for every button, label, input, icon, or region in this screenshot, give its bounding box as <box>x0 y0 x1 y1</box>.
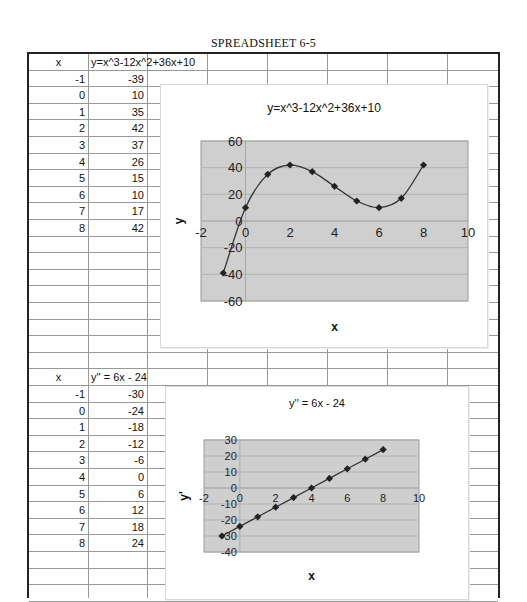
y-tick-label: 20 <box>225 450 237 462</box>
table2-cell-x[interactable]: 7 <box>32 519 85 535</box>
table1-cell-y[interactable]: 15 <box>91 170 144 186</box>
page-title: SPREADSHEET 6-5 <box>0 36 527 51</box>
table1-cell-x[interactable]: 4 <box>32 154 85 170</box>
table2-cell-y[interactable]: 6 <box>91 486 144 502</box>
table2-cell-y[interactable]: -6 <box>91 452 144 468</box>
x-tick-label: 10 <box>461 225 475 240</box>
table1-cell-y[interactable]: 26 <box>91 154 144 170</box>
x-tick-label: 2 <box>286 225 293 240</box>
table1-cell-x[interactable]: -1 <box>32 71 85 87</box>
table2-header-y[interactable]: y'' = 6x - 24 <box>91 369 147 385</box>
x-tick-label: -2 <box>199 492 209 504</box>
table1-cell-x[interactable]: 7 <box>32 203 85 219</box>
y-tick-label: 60 <box>228 134 242 149</box>
x-axis-label: x <box>331 320 338 334</box>
table1-cell-y[interactable]: 10 <box>91 87 144 103</box>
y-tick-label: 20 <box>228 187 242 202</box>
table2-cell-y[interactable]: -12 <box>91 436 144 452</box>
x-tick-label: -2 <box>195 225 207 240</box>
table2-cell-x[interactable]: 1 <box>32 419 85 435</box>
table2-cell-x[interactable]: 8 <box>32 535 85 551</box>
y-tick-label: -10 <box>221 498 237 510</box>
table2-cell-x[interactable]: 3 <box>32 452 85 468</box>
table1-header-y[interactable]: y=x^3-12x^2+36x+10 <box>91 54 195 70</box>
y-tick-label: -60 <box>224 294 243 309</box>
table1-cell-x[interactable]: 8 <box>32 220 85 236</box>
chart-second-derivative[interactable]: 3020100-10-20-30-40-20246810y'' = 6x - 2… <box>165 386 469 600</box>
table2-cell-x[interactable]: 5 <box>32 486 85 502</box>
table1-cell-y[interactable]: 17 <box>91 203 144 219</box>
x-tick-label: 6 <box>344 492 350 504</box>
x-tick-label: 8 <box>420 225 427 240</box>
table1-header-x[interactable]: x <box>32 54 85 70</box>
chart-title: y=x^3-12x^2+36x+10 <box>267 101 381 115</box>
x-tick-label: 10 <box>413 492 425 504</box>
y-axis-label: y <box>172 217 186 224</box>
table2-header-x[interactable]: x <box>32 369 85 385</box>
table1-cell-x[interactable]: 1 <box>32 104 85 120</box>
table1-cell-y[interactable]: 42 <box>91 220 144 236</box>
table2-cell-y[interactable]: 0 <box>91 469 144 485</box>
table2-cell-y[interactable]: -30 <box>91 386 144 402</box>
table2-cell-x[interactable]: 0 <box>32 403 85 419</box>
row-divider <box>29 352 498 353</box>
x-tick-label: 2 <box>273 492 279 504</box>
chart-title: y'' = 6x - 24 <box>289 397 345 409</box>
table2-cell-x[interactable]: 6 <box>32 502 85 518</box>
chart-cubic-function[interactable]: 6040200-20-40-60-20246810y=x^3-12x^2+36x… <box>160 84 488 348</box>
table2-cell-x[interactable]: -1 <box>32 386 85 402</box>
y-tick-label: 40 <box>228 160 242 175</box>
table1-cell-y[interactable]: 37 <box>91 137 144 153</box>
chart-svg: 3020100-10-20-30-40-20246810y'' = 6x - 2… <box>166 387 468 599</box>
table1-cell-y[interactable]: 35 <box>91 104 144 120</box>
table1-cell-y[interactable]: 42 <box>91 120 144 136</box>
table1-cell-x[interactable]: 2 <box>32 120 85 136</box>
chart-svg: 6040200-20-40-60-20246810y=x^3-12x^2+36x… <box>161 85 487 347</box>
y-tick-label: 30 <box>225 434 237 446</box>
x-tick-label: 6 <box>375 225 382 240</box>
table1-cell-x[interactable]: 5 <box>32 170 85 186</box>
table1-cell-y[interactable]: 10 <box>91 187 144 203</box>
y-axis-label: y' <box>177 491 191 501</box>
table2-cell-x[interactable]: 4 <box>32 469 85 485</box>
y-tick-label: -40 <box>221 546 237 558</box>
x-tick-label: 8 <box>380 492 386 504</box>
table1-cell-y[interactable]: -39 <box>91 71 144 87</box>
table2-cell-y[interactable]: 24 <box>91 535 144 551</box>
y-tick-label: -40 <box>224 267 243 282</box>
y-tick-label: -20 <box>221 514 237 526</box>
table2-cell-x[interactable]: 2 <box>32 436 85 452</box>
table1-cell-x[interactable]: 3 <box>32 137 85 153</box>
x-axis-label: x <box>308 569 315 583</box>
x-tick-label: 0 <box>237 492 243 504</box>
table1-cell-x[interactable]: 6 <box>32 187 85 203</box>
table2-cell-y[interactable]: 12 <box>91 502 144 518</box>
table1-cell-x[interactable]: 0 <box>32 87 85 103</box>
table2-cell-y[interactable]: 18 <box>91 519 144 535</box>
x-tick-label: 4 <box>308 492 314 504</box>
table2-cell-y[interactable]: -18 <box>91 419 144 435</box>
x-tick-label: 4 <box>331 225 338 240</box>
y-tick-label: 10 <box>225 466 237 478</box>
table2-cell-y[interactable]: -24 <box>91 403 144 419</box>
x-tick-label: 0 <box>242 225 249 240</box>
